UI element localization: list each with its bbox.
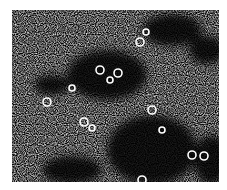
dark-cluster — [67, 50, 147, 100]
dark-cluster — [34, 75, 70, 95]
micrograph-canvas — [12, 10, 219, 182]
dark-cluster — [142, 14, 202, 46]
dark-cluster — [107, 115, 197, 182]
micrograph-image — [12, 10, 219, 182]
